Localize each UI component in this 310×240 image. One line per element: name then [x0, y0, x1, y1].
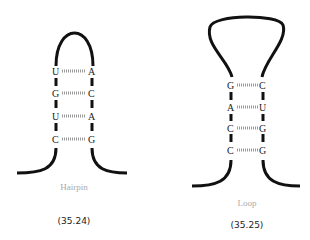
hairpin-label: Hairpin — [60, 182, 88, 192]
loop-base-right-2: U — [259, 102, 267, 113]
loop-base-left-4: C — [227, 145, 234, 156]
loop-base-left-2: A — [227, 102, 235, 113]
loop-label: Loop — [238, 198, 257, 208]
loop-base-left-3: C — [227, 123, 234, 134]
hairpin-base-left-2: G — [52, 88, 59, 99]
rna-structures-figure: U A G C U A C G Hairpin (35.24) G C A U … — [0, 0, 310, 240]
hairpin-base-right-2: C — [88, 88, 95, 99]
hairpin-right-tail — [92, 148, 127, 173]
hairpin-base-left-1: U — [52, 66, 60, 77]
loop-diagram: G C A U C G C G Loop (35.25) — [192, 17, 300, 230]
hairpin-loop-arc — [56, 33, 93, 66]
hairpin-hbonds — [62, 71, 86, 139]
hairpin-base-right-4: G — [88, 134, 95, 145]
loop-base-right-1: C — [259, 80, 266, 91]
loop-base-left-1: G — [227, 80, 234, 91]
loop-base-right-3: G — [259, 123, 266, 134]
loop-hbonds — [237, 85, 258, 150]
loop-left-tail — [192, 160, 231, 186]
loop-arc — [209, 17, 283, 77]
hairpin-base-right-1: A — [88, 66, 96, 77]
hairpin-equation-number: (35.24) — [58, 216, 91, 226]
hairpin-base-right-3: A — [88, 111, 96, 122]
hairpin-left-tail — [17, 148, 56, 173]
loop-base-right-4: G — [259, 145, 266, 156]
hairpin-base-left-4: C — [52, 134, 59, 145]
hairpin-diagram: U A G C U A C G Hairpin (35.24) — [17, 33, 127, 226]
loop-right-tail — [263, 160, 300, 186]
hairpin-base-left-3: U — [52, 111, 60, 122]
loop-equation-number: (35.25) — [231, 220, 264, 230]
